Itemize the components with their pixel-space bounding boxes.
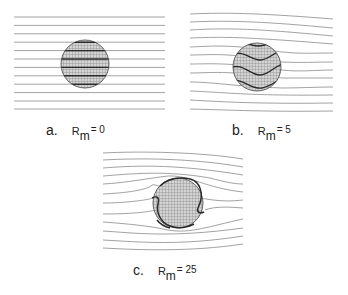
panel-b-symbol: R	[258, 125, 266, 137]
panel-a-subscript: m	[80, 129, 90, 143]
field-line-diagram	[0, 0, 348, 295]
panel-b-value: = 5	[277, 124, 291, 135]
panel-c-symbol: R	[158, 265, 166, 277]
panel-a-value: = 0	[91, 124, 105, 135]
panel-a-caption: a.Rm= 0	[46, 122, 105, 138]
panel-c-subscript: m	[166, 269, 176, 283]
panel-a-conductor	[61, 40, 109, 88]
panel-a	[14, 17, 165, 109]
panel-b-caption: b.Rm= 5	[232, 122, 291, 138]
panel-c-letter: c.	[133, 262, 144, 278]
panel-b	[190, 13, 333, 111]
panel-a-symbol: R	[72, 125, 80, 137]
panel-c	[103, 152, 243, 250]
panel-a-letter: a.	[46, 122, 58, 138]
panel-b-letter: b.	[232, 122, 244, 138]
panel-c-value: = 25	[177, 264, 197, 275]
panel-b-subscript: m	[266, 129, 276, 143]
panel-c-caption: c.Rm= 25	[133, 262, 197, 278]
